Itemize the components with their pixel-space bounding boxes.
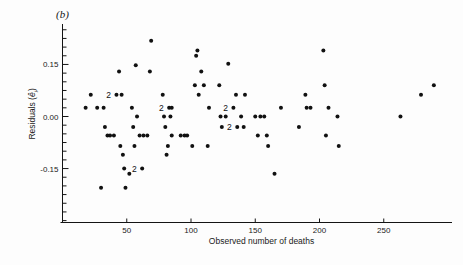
data-point [231, 106, 235, 110]
data-point [324, 134, 328, 138]
overplot-count-label: 2 [227, 122, 232, 132]
data-point [256, 134, 260, 138]
data-point [303, 93, 307, 97]
data-point [112, 134, 116, 138]
x-axis-label: Observed number of deaths [0, 236, 463, 246]
data-point [102, 106, 106, 110]
data-point [279, 106, 283, 110]
axis-lines [61, 24, 453, 223]
data-point [89, 93, 93, 97]
data-point [219, 115, 223, 119]
data-point [190, 144, 194, 148]
data-point [194, 54, 198, 58]
data-point [135, 115, 139, 119]
data-point [122, 167, 126, 171]
data-point [207, 106, 211, 110]
data-point [134, 63, 138, 67]
data-point [162, 115, 166, 119]
data-point [253, 115, 257, 119]
data-point [193, 83, 197, 87]
data-point [220, 125, 224, 129]
data-point [432, 83, 436, 87]
y-axis-label: Residuals (êi) [27, 59, 39, 169]
scatter-plot: 50100150200250 -0.150.000.15 22222 [0, 0, 463, 265]
data-point [335, 115, 339, 119]
data-point [123, 186, 127, 190]
x-tick-label: 250 [377, 226, 391, 235]
figure-panel-b: (b) 50100150200250 -0.150.000.15 22222 R… [0, 0, 463, 265]
data-point [234, 93, 238, 97]
data-point [243, 93, 247, 97]
y-tick-label: 0.00 [43, 113, 59, 122]
data-point [266, 144, 270, 148]
data-point [148, 69, 152, 73]
x-tick-label: 150 [249, 226, 263, 235]
data-point [138, 134, 142, 138]
data-point [121, 153, 125, 157]
data-point [226, 62, 230, 66]
data-point [305, 106, 309, 110]
data-point [166, 144, 170, 148]
data-point [323, 83, 327, 87]
data-point [103, 125, 107, 129]
data-point [117, 69, 121, 73]
data-point [168, 115, 172, 119]
data-point [95, 106, 99, 110]
data-point [170, 134, 174, 138]
overplot-count-label: 2 [159, 103, 164, 113]
data-point [297, 125, 301, 129]
x-tick-label: 100 [184, 226, 198, 235]
data-point [149, 39, 153, 43]
data-point [242, 125, 246, 129]
data-point [179, 134, 183, 138]
data-point [127, 172, 131, 176]
data-point [140, 167, 144, 171]
data-point [99, 186, 103, 190]
data-point [199, 69, 203, 73]
data-point [161, 93, 165, 97]
data-point [224, 115, 228, 119]
x-axis-ticks: 50100150200250 [122, 219, 391, 235]
y-tick-label: -0.15 [40, 165, 59, 174]
overplot-count-label: 2 [132, 164, 137, 174]
data-point [120, 93, 124, 97]
overplot-count-label: 2 [223, 103, 228, 113]
y-axis-label-text: Residuals (êi) [27, 88, 37, 139]
data-point [118, 144, 122, 148]
data-point [337, 144, 341, 148]
data-point [327, 106, 331, 110]
data-point [239, 115, 243, 119]
data-point [309, 106, 313, 110]
data-point [108, 134, 112, 138]
x-tick-label: 200 [313, 226, 327, 235]
data-point [258, 115, 262, 119]
data-point [273, 172, 277, 176]
data-point [145, 134, 149, 138]
y-tick-label: 0.15 [43, 60, 59, 69]
data-point [141, 134, 145, 138]
data-point [398, 115, 402, 119]
data-point [163, 125, 167, 129]
data-point [130, 106, 134, 110]
data-point [195, 49, 199, 53]
data-point [265, 134, 269, 138]
data-point [262, 115, 266, 119]
data-point [185, 134, 189, 138]
data-point [321, 49, 325, 53]
x-tick-label: 50 [122, 226, 131, 235]
data-point [217, 83, 221, 87]
data-point [131, 125, 135, 129]
data-point [132, 144, 136, 148]
data-point [197, 93, 201, 97]
data-point [170, 106, 174, 110]
data-point [202, 83, 206, 87]
data-point [114, 93, 118, 97]
data-point [206, 144, 210, 148]
data-point [165, 153, 169, 157]
overplot-count-labels: 22222 [106, 90, 232, 174]
overplot-count-label: 2 [106, 90, 111, 100]
data-point [84, 106, 88, 110]
data-point [419, 93, 423, 97]
y-axis-ticks: -0.150.000.15 [40, 30, 68, 221]
data-point [235, 125, 239, 129]
